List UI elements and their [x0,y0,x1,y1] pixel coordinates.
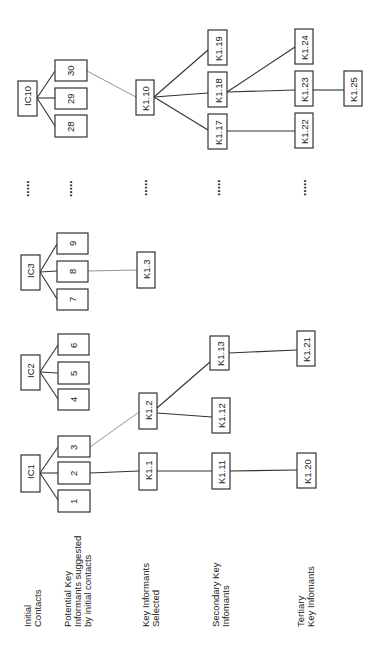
svg-text:Selected: Selected [150,590,161,627]
snowball-sampling-diagram: Initial Contacts Potential Key Informant… [0,0,378,667]
node-k1-20: K1.20 [297,453,316,488]
svg-text:7: 7 [67,297,78,302]
ellipsis-markers: ..... ..... ..... ..... ..... [18,179,309,197]
node-k1-25: K1.25 [344,71,362,106]
node-k1-10: K1.10 [136,80,154,115]
svg-text:1: 1 [68,499,79,504]
node-ic10: IC10 [18,81,37,116]
svg-text:28: 28 [65,121,76,132]
node-potential-30: 30 [55,60,87,81]
ellipsis-tertiary: ..... [295,179,309,196]
node-potential-2: 2 [58,462,90,484]
svg-text:K1.25: K1.25 [348,77,359,102]
ellipsis-initial: ..... [18,180,32,197]
svg-text:K1.2: K1.2 [143,400,154,420]
row-label-tertiary-key-informants: Tertiary Key Infomants [295,566,316,627]
node-potential-1: 1 [58,490,90,512]
svg-text:K1.23: K1.23 [299,77,310,102]
node-k1-2: K1.2 [139,393,157,429]
svg-text:30: 30 [65,65,76,76]
svg-text:9: 9 [67,241,78,246]
svg-text:K1.24: K1.24 [299,35,310,60]
svg-text:3: 3 [68,445,79,450]
svg-text:by initial contacts: by initial contacts [82,554,93,627]
svg-text:K1.1: K1.1 [143,460,154,480]
node-potential-29: 29 [55,88,87,109]
node-k1-3: K1.3 [137,252,155,288]
row-label-potential-key-informants: Potential Key Informants suggested by in… [62,536,93,627]
svg-text:Contacts: Contacts [32,589,43,627]
svg-text:K1.10: K1.10 [140,86,151,111]
svg-text:Key Infomants: Key Infomants [305,566,316,627]
svg-text:K1.17: K1.17 [213,120,224,145]
node-k1-12: K1.12 [212,398,230,433]
ellipsis-potential: ..... [61,180,75,197]
svg-text:5: 5 [68,371,79,376]
ellipsis-key: ..... [136,179,150,196]
svg-text:K1.13: K1.13 [215,341,226,366]
svg-text:8: 8 [67,269,78,274]
node-ic3: IC3 [21,255,40,290]
row-label-initial-contacts: Initial Contacts [22,589,43,627]
svg-text:6: 6 [68,343,79,348]
node-k1-22: K1.22 [295,113,313,148]
node-k1-11: K1.11 [212,453,230,489]
node-k1-17: K1.17 [208,114,227,149]
svg-text:K1.22: K1.22 [299,119,310,144]
svg-text:4: 4 [68,397,79,402]
row-label-secondary-key-informants: Secondary Key Infomants [210,562,231,627]
node-k1-21: K1.21 [297,331,315,366]
node-potential-4: 4 [58,389,89,410]
node-k1-23: K1.23 [295,71,313,106]
svg-text:K1.21: K1.21 [301,337,312,362]
node-k1-24: K1.24 [295,29,313,64]
svg-text:K1.20: K1.20 [302,459,313,484]
svg-text:2: 2 [68,471,79,476]
node-ic1: IC1 [21,455,40,492]
svg-text:K1.11: K1.11 [216,460,227,484]
svg-text:K1.3: K1.3 [141,259,152,279]
node-potential-9: 9 [57,233,88,254]
svg-text:K1.18: K1.18 [213,78,224,103]
node-k1-19: K1.19 [208,30,227,65]
node-k1-18: K1.18 [208,72,227,107]
svg-text:IC2: IC2 [25,363,36,378]
node-potential-8: 8 [57,261,88,282]
node-potential-7: 7 [57,289,88,310]
svg-text:IC3: IC3 [25,263,36,278]
row-label-key-informants-selected: Key Informants Selected [140,563,161,627]
node-k1-13: K1.13 [210,336,229,370]
node-potential-5: 5 [58,362,89,384]
node-potential-3: 3 [58,436,90,457]
svg-text:IC1: IC1 [25,464,36,479]
svg-text:Infomants: Infomants [220,585,231,627]
svg-text:29: 29 [65,93,76,104]
ellipsis-secondary: ..... [209,179,223,196]
svg-text:K1.12: K1.12 [216,403,227,428]
node-ic2: IC2 [21,355,40,390]
svg-text:K1.19: K1.19 [213,36,224,61]
node-potential-6: 6 [58,334,89,355]
svg-text:IC10: IC10 [22,86,33,106]
node-potential-28: 28 [55,115,87,137]
node-k1-1: K1.1 [139,453,157,490]
